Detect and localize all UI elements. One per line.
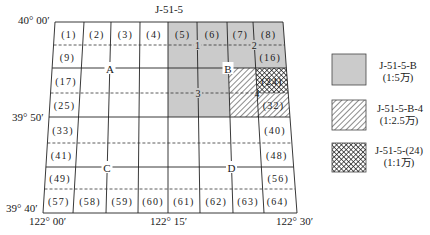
cell-label: (16) (260, 52, 281, 64)
legend-code: J-51-5-(24) (375, 145, 423, 157)
quadrant-label-b: B (224, 63, 231, 75)
quadrant-label-d: D (228, 162, 236, 174)
cell-label: (49) (49, 173, 70, 185)
sub-quadrant-label-3: 3 (196, 88, 201, 99)
legend-swatch-diagonal-hatch (332, 100, 366, 130)
cell-label: (24) (261, 76, 282, 88)
legend-item-1-10000: J-51-5-(24) (1:1万) (332, 143, 423, 172)
cell-label: (32) (263, 100, 284, 112)
legend-swatch-gray-fill (332, 54, 366, 85)
longitude-label-middle: 122° 15′ (150, 215, 187, 227)
cell-label: (57) (48, 196, 69, 208)
legend-scale: (1:5万) (383, 72, 414, 84)
legend-item-1-25000: J-51-5-B-4 (1:2.5万) (332, 100, 424, 130)
cell-label: (33) (52, 125, 73, 137)
map-title: J-51-5 (155, 3, 184, 15)
cell-label: (2) (89, 29, 104, 41)
longitude-label-left: 122° 00′ (29, 215, 66, 227)
cell-label: (59) (111, 196, 132, 208)
cell-label: (64) (267, 196, 288, 208)
legend-swatch-cross-hatch (332, 143, 366, 172)
legend-scale: (1:1万) (384, 157, 415, 169)
legend: J-51-5-B (1:5万) J-51-5-B-4 (1:2.5万) J-51… (332, 54, 424, 172)
sub-quadrant-label-1: 1 (195, 40, 200, 51)
legend-code: J-51-5-B (379, 60, 416, 71)
cell-label: (5) (175, 29, 190, 41)
cell-label: (61) (173, 196, 194, 208)
quadrant-label-c: C (103, 162, 110, 174)
latitude-label-middle: 39° 50′ (12, 111, 44, 123)
map-sheet-index-diagram: J-51-5 (1) (2) (3) (4) (5) (6) (0, 0, 430, 235)
cell-label: (25) (54, 100, 75, 112)
legend-item-1-50000: J-51-5-B (1:5万) (332, 54, 417, 85)
cell-label: (40) (264, 125, 285, 137)
cell-label: (41) (51, 150, 72, 162)
cell-label: (58) (79, 196, 100, 208)
longitude-label-right: 122° 30′ (276, 215, 313, 227)
cell-label: (56) (267, 173, 288, 185)
cell-label: (62) (205, 196, 226, 208)
cell-label: (3) (118, 29, 133, 41)
cell-label: (48) (266, 150, 287, 162)
cell-label: (6) (205, 29, 220, 41)
cell-label: (4) (146, 29, 161, 41)
cell-label: (60) (142, 196, 163, 208)
sub-quadrant-label-2: 2 (252, 40, 257, 51)
legend-scale: (1:2.5万) (380, 115, 419, 127)
latitude-label-bottom: 39° 40′ (6, 202, 38, 214)
cell-label: (1) (61, 29, 76, 41)
cell-label: (7) (233, 29, 248, 41)
cell-label: (63) (237, 196, 258, 208)
quadrant-label-a: A (106, 63, 114, 75)
legend-code: J-51-5-B-4 (377, 103, 424, 114)
latitude-label-top: 40° 00′ (18, 14, 50, 26)
cell-label: (17) (55, 76, 76, 88)
cell-label: (9) (60, 52, 75, 64)
cell-label: (8) (261, 29, 276, 41)
sub-quadrant-label-4: 4 (255, 88, 260, 99)
